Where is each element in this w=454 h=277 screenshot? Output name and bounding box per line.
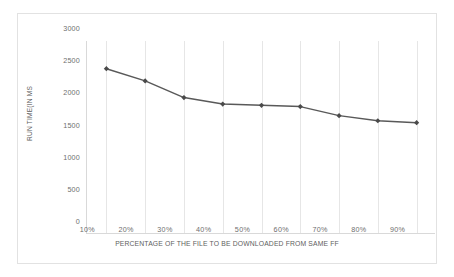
series-markers	[104, 66, 419, 125]
x-axis-tick-labels: 10%20%30%40%50%60%70%80%90%	[0, 225, 454, 239]
series-run-time	[87, 41, 436, 234]
data-point-20%	[143, 78, 148, 83]
x-tick-60%: 60%	[274, 225, 289, 234]
data-point-40%	[220, 101, 225, 106]
x-tick-70%: 70%	[312, 225, 327, 234]
series-line	[106, 69, 416, 123]
x-tick-90%: 90%	[390, 225, 405, 234]
x-tick-80%: 80%	[351, 225, 366, 234]
data-point-60%	[298, 104, 303, 109]
data-point-80%	[375, 118, 380, 123]
y-tick-1000: 1000	[34, 152, 80, 161]
y-tick-2000: 2000	[34, 88, 80, 97]
data-point-90%	[414, 120, 419, 125]
plot-area	[86, 41, 435, 234]
x-axis-title: PERCENTAGE OF THE FILE TO BE DOWNLOADED …	[0, 240, 454, 247]
y-tick-2500: 2500	[34, 56, 80, 65]
x-tick-30%: 30%	[157, 225, 172, 234]
y-tick-1500: 1500	[34, 120, 80, 129]
x-tick-10%: 10%	[80, 225, 95, 234]
data-point-10%	[104, 66, 109, 71]
data-point-30%	[181, 95, 186, 100]
data-point-70%	[336, 113, 341, 118]
x-tick-40%: 40%	[196, 225, 211, 234]
data-point-50%	[259, 103, 264, 108]
y-tick-3000: 3000	[34, 24, 80, 33]
y-axis-title: RUN TIME(IN MS	[26, 59, 33, 169]
x-tick-50%: 50%	[235, 225, 250, 234]
x-tick-20%: 20%	[119, 225, 134, 234]
y-tick-500: 500	[34, 184, 80, 193]
